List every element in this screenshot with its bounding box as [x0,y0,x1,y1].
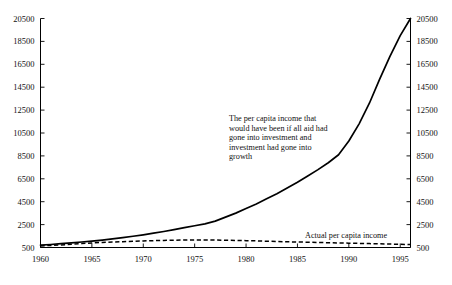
left-tick-label: 16500 [13,59,34,69]
right-tick-label: 18500 [417,36,438,46]
left-tick-label: 4500 [18,197,35,207]
chart-background [0,0,452,285]
right-tick-label: 10500 [417,128,438,138]
left-tick-label: 500 [22,243,35,253]
right-tick-label: 6500 [417,174,434,184]
x-tick-label: 1995 [392,254,409,264]
annotation-line: The per capita income that [229,114,317,123]
left-tick-label: 10500 [13,128,34,138]
x-tick-label: 1960 [32,254,49,264]
x-tick-label: 1985 [289,254,306,264]
annotation-actual-label: Actual per capita income [305,231,387,240]
right-tick-label: 500 [417,243,430,253]
left-tick-label: 2500 [18,220,35,230]
x-tick-label: 1975 [186,254,203,264]
chart-container: 5002500450065008500105001250014500165001… [0,0,452,285]
annotation-line: Actual per capita income [305,231,387,240]
annotation-line: growth [229,152,252,161]
right-tick-label: 14500 [417,82,438,92]
x-tick-label: 1965 [83,254,100,264]
right-tick-label: 2500 [417,220,434,230]
left-tick-label: 12500 [13,105,34,115]
left-tick-label: 20500 [13,14,34,24]
left-tick-label: 14500 [13,82,34,92]
right-tick-label: 16500 [417,59,438,69]
left-tick-label: 6500 [18,174,35,184]
x-tick-label: 1990 [340,254,357,264]
x-tick-label: 1980 [238,254,255,264]
x-tick-label: 1970 [135,254,152,264]
right-tick-label: 4500 [417,197,434,207]
left-tick-label: 18500 [13,36,34,46]
annotation-line: investment had gone into [229,143,312,152]
right-tick-label: 8500 [417,151,434,161]
line-chart-plot: 5002500450065008500105001250014500165001… [0,0,452,285]
right-tick-label: 20500 [417,14,438,24]
right-tick-label: 12500 [417,105,438,115]
annotation-line: gone into investment and [229,133,312,142]
annotation-line: would have been if all aid had [229,124,328,133]
left-tick-label: 8500 [18,151,35,161]
